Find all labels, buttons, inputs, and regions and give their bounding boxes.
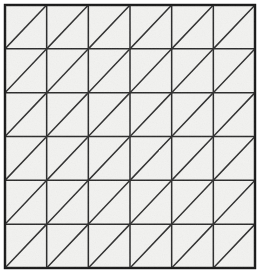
figure-root: Triangulated square grid A square outlin… [0,0,261,274]
triangulated-grid-svg: Triangulated square grid A square outlin… [0,0,261,274]
